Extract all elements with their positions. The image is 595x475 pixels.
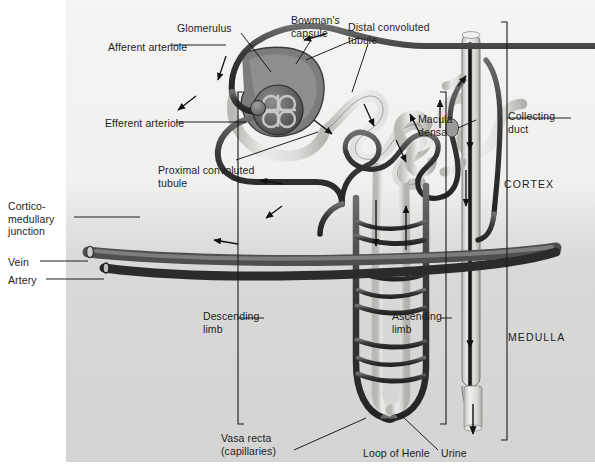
region-label-medulla: MEDULLA bbox=[508, 331, 565, 343]
label-collecting-duct: Collecting duct bbox=[508, 110, 555, 135]
label-efferent-arteriole: Efferent arteriole bbox=[105, 117, 184, 130]
region-label-cortex: CORTEX bbox=[504, 178, 554, 190]
label-macula-densa: Macula densa bbox=[418, 113, 452, 138]
label-descending-limb: Descending limb bbox=[203, 310, 259, 335]
label-distal-convoluted-tubule: Distal convoluted tubule bbox=[348, 21, 430, 46]
figure-root: Afferent arteriole Glomerulus Bowman's c… bbox=[0, 0, 595, 475]
label-artery: Artery bbox=[8, 274, 37, 287]
label-urine: Urine bbox=[441, 447, 467, 460]
label-cortico-medullary-junction: Cortico- medullary junction bbox=[8, 200, 54, 238]
nephron-svg bbox=[66, 0, 595, 462]
label-proximal-convoluted-tubule: Proximal convoluted tubule bbox=[158, 164, 254, 189]
label-vein: Vein bbox=[8, 256, 29, 269]
label-loop-of-henle: Loop of Henle bbox=[363, 447, 430, 460]
label-afferent-arteriole: Afferent arteriole bbox=[108, 41, 187, 54]
label-vasa-recta: Vasa recta (capillaries) bbox=[221, 432, 276, 457]
label-glomerulus: Glomerulus bbox=[177, 22, 232, 35]
background-gradient bbox=[66, 0, 595, 462]
label-ascending-limb: Ascending limb bbox=[392, 310, 442, 335]
nephron-illustration-panel bbox=[66, 0, 595, 462]
label-bowmans-capsule: Bowman's capsule bbox=[291, 14, 340, 39]
